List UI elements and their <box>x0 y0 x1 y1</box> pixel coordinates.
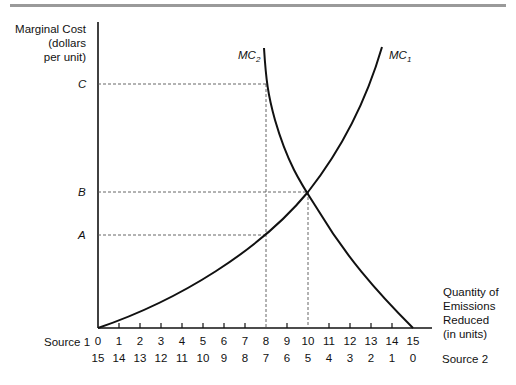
source2-label: Source 2 <box>442 352 488 366</box>
mc2-label-main: MC <box>238 49 256 61</box>
mc2-label-sub: 2 <box>256 55 260 64</box>
x-axis-title-line: Emissions <box>443 299 499 313</box>
tick-label: 0 <box>401 352 425 364</box>
mc2-label: MC2 <box>238 48 260 67</box>
mc1-label-main: MC <box>389 49 407 61</box>
mc1-label: MC1 <box>389 48 411 67</box>
x-axis-title-line: (in units) <box>443 327 499 341</box>
source1-label: Source 1 <box>44 335 90 349</box>
guide-lines <box>98 84 308 328</box>
mc1-label-sub: 1 <box>407 55 411 64</box>
x-axis-title-line: Reduced <box>443 313 499 327</box>
tick-label: 15 <box>401 335 425 347</box>
x-axis-title: Quantity of Emissions Reduced (in units) <box>443 285 499 341</box>
x-axis-title-line: Quantity of <box>443 285 499 299</box>
mc1-curve <box>98 47 382 328</box>
mc2-curve <box>264 48 413 328</box>
